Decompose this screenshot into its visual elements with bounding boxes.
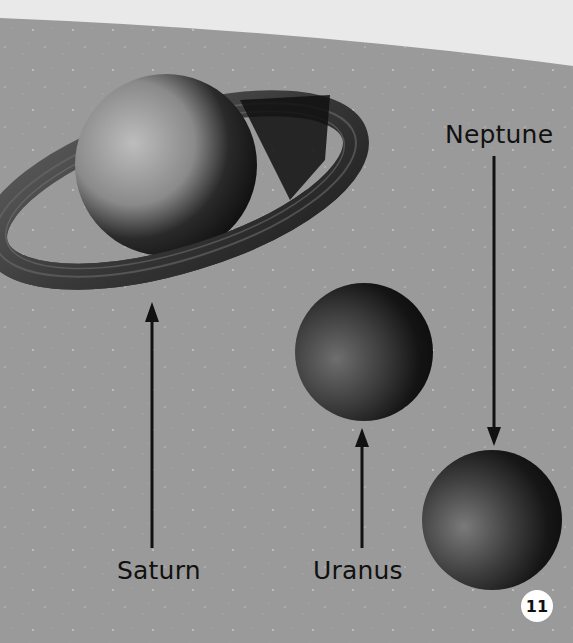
page-number-badge: 11 xyxy=(521,590,553,622)
book-page: Saturn Uranus Neptune 11 xyxy=(0,0,573,643)
neptune-label: Neptune xyxy=(445,120,553,149)
neptune-planet xyxy=(422,450,562,590)
uranus-label: Uranus xyxy=(313,556,403,585)
saturn-label: Saturn xyxy=(117,556,201,585)
space-background xyxy=(0,0,573,643)
uranus-planet xyxy=(295,283,433,421)
